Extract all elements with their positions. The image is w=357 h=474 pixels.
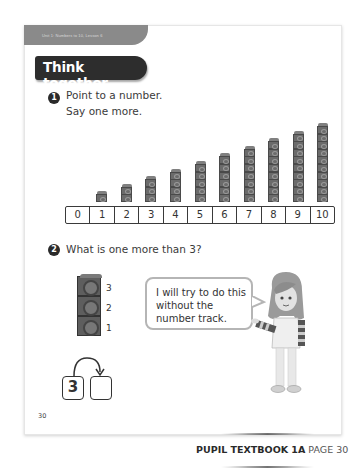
cube-icon — [219, 194, 230, 202]
cube-tower-6 — [219, 153, 230, 202]
cube-icon — [195, 194, 206, 202]
cube-tower-2 — [121, 184, 132, 202]
question-1-line-2: Say one more. — [66, 105, 142, 117]
question-1-line-1: Point to a number. — [66, 89, 162, 101]
question-2-text: What is one more than 3? — [66, 243, 202, 255]
speech-bubble-text: I will try to do this without the number… — [156, 286, 251, 325]
cube-tower-1 — [96, 191, 107, 202]
cube-icon — [121, 194, 132, 202]
cube-icon — [317, 194, 328, 202]
three-cube-stack — [77, 274, 103, 336]
cube-tower-8 — [268, 138, 279, 202]
cube-tower-9 — [293, 131, 304, 202]
question-2-number-badge: 2 — [48, 244, 60, 256]
cube-icon — [77, 276, 101, 296]
cube-icon — [170, 194, 181, 202]
track-cell-8[interactable]: 8 — [262, 207, 286, 223]
cube-icon — [96, 194, 107, 202]
page-number: 30 — [38, 412, 46, 420]
cube-icon — [244, 194, 255, 202]
cube-tower-10 — [317, 123, 328, 202]
track-cell-4[interactable]: 4 — [164, 207, 188, 223]
stack-label-2: 2 — [106, 303, 112, 313]
unit-header-tab: Unit 1: Numbers to 10, Lesson 6 — [24, 25, 148, 45]
number-track: 012345678910 — [65, 206, 335, 224]
cube-tower-3 — [145, 176, 156, 202]
track-cell-0[interactable]: 0 — [66, 207, 90, 223]
cube-icon — [268, 194, 279, 202]
track-cell-7[interactable]: 7 — [237, 207, 261, 223]
unit-label: Unit 1: Numbers to 10, Lesson 6 — [42, 33, 102, 38]
answer-box[interactable] — [90, 376, 112, 400]
footer-banner: PUPIL TEXTBOOK 1APAGE 30 — [190, 440, 335, 462]
jump-arrow-icon — [64, 356, 110, 378]
track-cell-3[interactable]: 3 — [139, 207, 163, 223]
cube-tower-5 — [195, 161, 206, 202]
cube-icon — [77, 296, 101, 316]
track-cell-6[interactable]: 6 — [213, 207, 237, 223]
cube-tower-7 — [244, 146, 255, 202]
track-cell-9[interactable]: 9 — [286, 207, 310, 223]
book-label: PUPIL TEXTBOOK 1A — [196, 444, 305, 455]
section-title: Think together — [43, 59, 147, 91]
cube-tower-4 — [170, 169, 181, 202]
track-cell-2[interactable]: 2 — [115, 207, 139, 223]
section-title-pill: Think together — [35, 56, 147, 80]
girl-character-icon — [250, 268, 320, 400]
track-cell-10[interactable]: 10 — [311, 207, 334, 223]
speech-bubble: I will try to do this without the number… — [145, 277, 253, 330]
stack-label-1: 1 — [106, 323, 112, 333]
stack-label-3: 3 — [106, 283, 112, 293]
cube-icon — [77, 316, 101, 336]
cube-icon — [293, 194, 304, 202]
question-1-number-badge: 1 — [48, 92, 60, 104]
page-label: PAGE 30 — [308, 444, 348, 455]
track-cell-5[interactable]: 5 — [188, 207, 212, 223]
track-cell-1[interactable]: 1 — [90, 207, 114, 223]
start-number-box: 3 — [62, 376, 84, 400]
cube-icon — [145, 194, 156, 202]
